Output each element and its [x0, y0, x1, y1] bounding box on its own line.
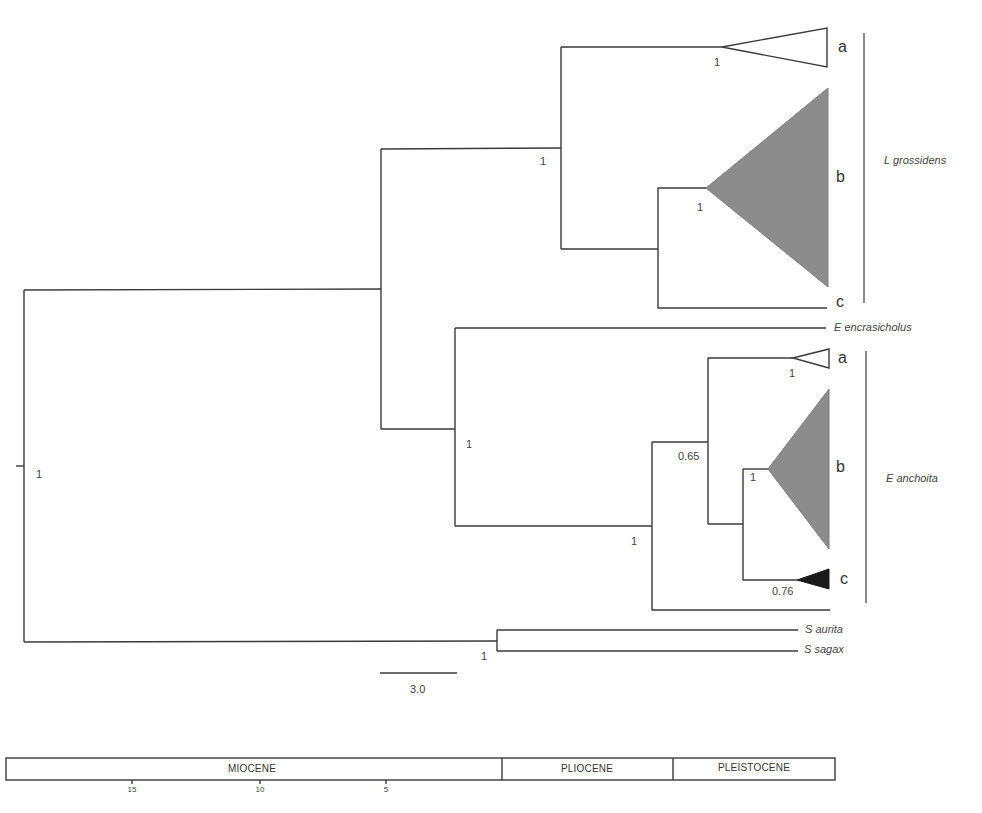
s-aurita-label: S aurita — [805, 623, 843, 635]
e-encrasicholus-label: E encrasicholus — [834, 321, 912, 333]
eanchoita-abc-support: 0.65 — [678, 450, 699, 462]
s-sagax-label: S sagax — [804, 643, 844, 655]
lgrossidens-clade-c-label: c — [836, 293, 844, 310]
lgrossidens-b-support: 1 — [697, 201, 703, 213]
phylogenetic-tree: 1 1 1 a 1 b c L grossidens 1 E encrasich… — [0, 0, 982, 813]
outgroup-stem — [24, 641, 497, 642]
eanchoita-clade-c-triangle — [797, 569, 829, 589]
ingroup-branch — [24, 289, 381, 290]
epoch-pleistocene: PLEISTOCENE — [718, 762, 790, 773]
epoch-pliocene: PLIOCENE — [561, 763, 613, 774]
eanchoita-b-support: 1 — [750, 471, 756, 483]
outgroup-support: 1 — [481, 650, 487, 662]
eanchoita-clade-b-label: b — [836, 458, 845, 475]
eanchoita-clade-c-label: c — [840, 570, 848, 587]
lgrossidens-clade-a-triangle — [722, 28, 827, 67]
lgrossidens-clade-a-label: a — [838, 38, 847, 55]
eanchoita-a-support: 1 — [789, 367, 795, 379]
engraulis-support: 1 — [466, 438, 472, 450]
tick-label-10: 10 — [256, 785, 265, 794]
scale-bar-label: 3.0 — [410, 683, 425, 695]
eanchoita-clade-a-label: a — [838, 349, 847, 366]
lgrossidens-group-label: L grossidens — [884, 154, 947, 166]
eanchoita-c-support: 0.76 — [772, 585, 793, 597]
eanchoita-clade-b-triangle — [768, 389, 829, 549]
lgrossidens-support: 1 — [540, 155, 546, 167]
eanchoita-clade-a-triangle — [793, 349, 829, 368]
eanchoita-group-label: E anchoita — [886, 472, 938, 484]
epoch-miocene: MIOCENE — [228, 763, 276, 774]
lgrossidens-a-support: 1 — [714, 56, 720, 68]
lgrossidens-clade-b-triangle — [706, 88, 828, 287]
root-support: 1 — [36, 468, 42, 480]
geologic-timescale: MIOCENE PLIOCENE PLEISTOCENE 15 10 5 — [6, 758, 835, 794]
timescale-frame — [6, 758, 835, 780]
lgrossidens-clade-b-label: b — [836, 168, 845, 185]
eanchoita-support: 1 — [631, 535, 637, 547]
lgrossidens-stem — [381, 148, 561, 149]
tick-label-15: 15 — [128, 785, 137, 794]
tick-label-5: 5 — [384, 785, 389, 794]
